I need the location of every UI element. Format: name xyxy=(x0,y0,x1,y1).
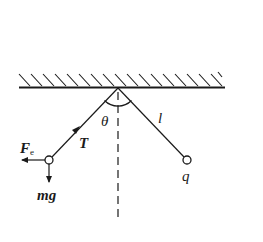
right-string xyxy=(118,88,184,157)
pendulum-diagram: θ l T Fe mg q xyxy=(0,0,263,242)
tension-label: T xyxy=(79,135,89,151)
right-ball xyxy=(183,156,191,164)
length-label: l xyxy=(158,110,162,126)
electric-force-label: Fe xyxy=(19,140,34,157)
electric-force-label-main: F xyxy=(19,140,30,156)
charge-label: q xyxy=(182,168,190,184)
ceiling-hatching xyxy=(19,72,222,86)
angle-label: θ xyxy=(101,113,109,129)
left-ball xyxy=(45,156,53,164)
electric-force-label-sub: e xyxy=(30,147,34,157)
gravity-label: mg xyxy=(37,187,57,203)
tension-arrow-icon xyxy=(72,126,80,134)
